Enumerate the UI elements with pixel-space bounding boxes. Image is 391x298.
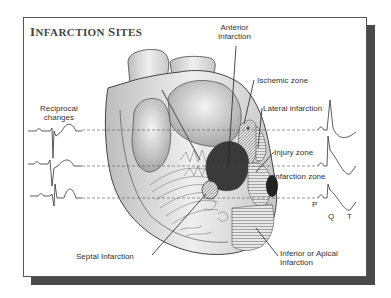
label-septal-infarction: Septal Infarction [76, 252, 134, 261]
label-anterior-infarction: Anterior Infarction [218, 23, 251, 41]
ecg-label-q: Q [328, 212, 334, 221]
ecg-reciprocal-traces [28, 124, 82, 206]
label-anterior-line-1: Anterior [218, 23, 251, 32]
label-reciprocal-line-2: changes [40, 113, 78, 122]
right-chamber [132, 99, 171, 173]
label-injury-zone: Injury zone [274, 148, 313, 157]
label-reciprocal-line-1: Reciprocal [40, 104, 78, 113]
label-inferior-apical-infarction: Inferior or Apical Infarction [280, 249, 338, 267]
ecg-label-t: T [347, 212, 352, 221]
inferior-infarction-zone [232, 204, 274, 251]
label-ischemic-zone: Ischemic zone [257, 76, 308, 85]
label-inferior-line-2: Infarction [280, 258, 338, 267]
label-infarction-zone: Infarction zone [273, 172, 325, 181]
label-inferior-line-1: Inferior or Apical [280, 249, 338, 258]
ecg-label-p: P [312, 200, 317, 209]
label-reciprocal-changes: Reciprocal changes [40, 104, 78, 122]
label-anterior-line-2: Infarction [218, 32, 251, 41]
ecg-right-traces [318, 100, 356, 210]
label-lateral-infarction: Lateral infarction [263, 104, 322, 113]
